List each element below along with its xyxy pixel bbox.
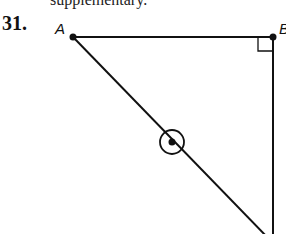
point-a	[70, 34, 77, 41]
point-b	[270, 34, 277, 41]
segment-ac	[73, 37, 270, 234]
point-m	[169, 139, 176, 146]
geometry-figure	[0, 0, 286, 234]
